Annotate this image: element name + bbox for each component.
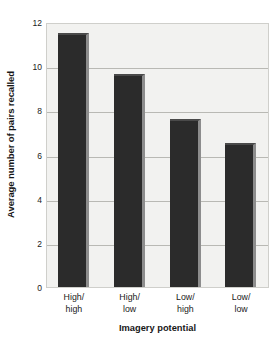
plot-area (46, 23, 269, 288)
y-axis-title-text: Average number of pairs recalled (5, 71, 16, 218)
bar-slot-1 (103, 24, 159, 287)
bar-slot-2 (159, 24, 215, 287)
bar-high-low (114, 74, 145, 287)
bar-high-high (58, 33, 89, 287)
y-tick-4: 4 (18, 195, 42, 205)
y-tick-2: 2 (18, 239, 42, 249)
x-tick-1-line-2: low (102, 304, 158, 316)
bar-low-high (170, 119, 201, 287)
bar-slot-0 (47, 24, 103, 287)
x-tick-3-line-1: Low/ (213, 292, 269, 304)
bar-series (47, 24, 268, 287)
bar-slot-3 (214, 24, 270, 287)
x-axis-tick-labels: High/ high High/ low Low/ high Low/ low (46, 292, 269, 324)
x-tick-0: High/ high (46, 292, 102, 315)
y-tick-12: 12 (18, 18, 42, 28)
x-tick-2-line-1: Low/ (158, 292, 214, 304)
x-tick-2-line-2: high (158, 304, 214, 316)
x-tick-3: Low/ low (213, 292, 269, 315)
bar-chart-figure: Average number of pairs recalled 0 2 4 6… (0, 0, 273, 346)
x-tick-1-line-1: High/ (102, 292, 158, 304)
y-tick-8: 8 (18, 106, 42, 116)
x-tick-0-line-2: high (46, 304, 102, 316)
bar-low-low (225, 143, 256, 287)
y-tick-0: 0 (18, 283, 42, 293)
x-tick-3-line-2: low (213, 304, 269, 316)
x-axis-title: Imagery potential (46, 323, 269, 333)
y-axis-tick-labels: 0 2 4 6 8 10 12 (16, 0, 42, 346)
x-tick-0-line-1: High/ (46, 292, 102, 304)
x-tick-2: Low/ high (158, 292, 214, 315)
x-tick-1: High/ low (102, 292, 158, 315)
y-tick-10: 10 (18, 62, 42, 72)
y-tick-6: 6 (18, 151, 42, 161)
